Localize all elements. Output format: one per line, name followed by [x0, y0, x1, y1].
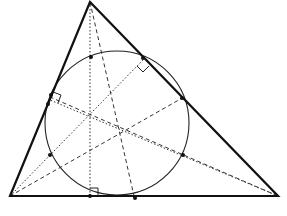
right-angle-mark-foot-b — [137, 66, 149, 72]
point-foot-c — [49, 93, 53, 97]
median-from-c — [50, 97, 278, 196]
point-midpoint-ah — [89, 55, 93, 59]
triangle-abc — [10, 2, 278, 196]
median-from-b — [10, 97, 184, 196]
point-midpoint-ab — [46, 102, 50, 106]
altitude-from-b — [10, 60, 143, 196]
point-midpoint-ch — [181, 153, 185, 157]
nine-point-circle-diagram — [0, 0, 287, 216]
nine-point-circle — [45, 51, 189, 195]
point-midpoint-ca — [180, 96, 184, 100]
point-foot-b — [141, 56, 145, 60]
median-from-a — [90, 2, 134, 196]
point-foot-a — [88, 194, 92, 198]
point-midpoint-bh — [48, 153, 52, 157]
point-midpoint-bc — [133, 196, 137, 200]
